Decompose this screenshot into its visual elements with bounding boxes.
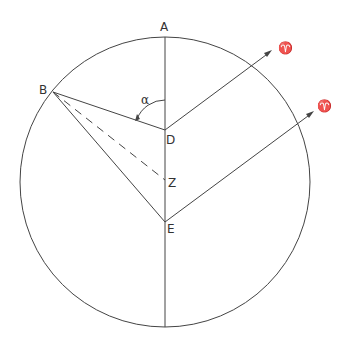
aries-icon-top: ♈ xyxy=(278,41,293,55)
label-d: D xyxy=(166,133,175,147)
label-alpha: α xyxy=(141,93,149,107)
label-a: A xyxy=(160,20,169,34)
line-d-aries xyxy=(165,52,270,130)
aries-icon-bottom: ♈ xyxy=(317,99,332,113)
label-b: B xyxy=(39,83,47,97)
line-e-aries xyxy=(165,113,312,222)
label-e: E xyxy=(167,222,175,236)
label-z: Z xyxy=(168,176,176,190)
diagram-canvas: A B D Z E α ♈ ♈ xyxy=(0,0,346,345)
